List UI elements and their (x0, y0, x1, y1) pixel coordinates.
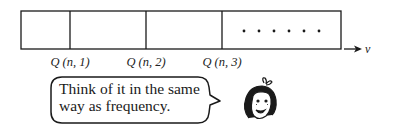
axis-arrow-icon (344, 46, 362, 53)
axis-label: ν (365, 42, 371, 56)
frequency-bins-diagram: ν Q (n, 1) Q (n, 2) Q (n, 3) (0, 0, 393, 137)
speech-line-1: Think of it in the same (59, 80, 209, 97)
girl-face-icon (245, 78, 277, 119)
bins-box (21, 11, 341, 49)
segment-label-1: Q (n, 1) (50, 55, 89, 69)
speech-line-2: way as frequency. (59, 97, 209, 114)
segment-label-2: Q (n, 2) (126, 55, 165, 69)
segment-label-3: Q (n, 3) (202, 55, 241, 69)
continuation-dots (243, 30, 321, 33)
speech-bubble-text: Think of it in the same way as frequency… (59, 80, 209, 114)
